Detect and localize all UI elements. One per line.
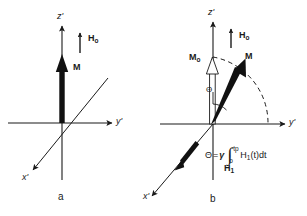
panel-b-z-axis-label: z'	[208, 8, 214, 17]
panel-b-caption: b	[210, 194, 216, 204]
formula-integrand-main: H	[240, 150, 247, 160]
formula-integrand-sub: 1	[247, 154, 251, 161]
panel-b-m0-label: Mo	[189, 53, 200, 62]
integral-sign-group: ∫ tp o	[225, 146, 239, 164]
integral-lower-limit: o	[229, 157, 233, 164]
panel-b-y-axis-label: y'	[289, 118, 295, 127]
panel-b-formula: Θ = γ ∫ tp o H1(t)dt	[205, 146, 266, 164]
panel-a-graphics	[8, 26, 112, 180]
panel-a-x-axis-label: x'	[22, 173, 28, 182]
formula-integrand: H1(t)dt	[240, 150, 266, 160]
panel-a-y-axis-label: y'	[116, 117, 122, 126]
panel-b-h0-label-main: H	[239, 30, 246, 40]
panel-b-graphics	[152, 22, 285, 196]
figure-vector-graphics	[0, 0, 307, 216]
integral-upper-limit: tp	[233, 145, 238, 152]
panel-a-m-label: M	[73, 63, 81, 72]
panel-b-h1-label-sub: 1	[231, 167, 235, 174]
panel-b-h1-vector	[175, 141, 200, 171]
panel-b-h1-label: H1	[224, 164, 234, 173]
panel-b-m0-label-main: M	[189, 52, 197, 62]
panel-a-x-axis	[33, 78, 108, 170]
formula-equals: =	[213, 150, 218, 160]
panel-a-z-axis-label: z'	[57, 12, 63, 21]
panel-a-h0-label-sub: o	[95, 37, 99, 44]
panel-b-h0-label: Ho	[239, 31, 249, 40]
figure-root: z' y' x' Ho M a z' y' x' Ho Mo M H1 Θ Θ …	[0, 0, 307, 216]
panel-b-m-label: M	[245, 52, 253, 61]
panel-a-m-vector	[56, 54, 68, 123]
integral-upper-limit-sub: p	[235, 145, 239, 152]
panel-b-theta-label: Θ	[206, 86, 212, 94]
panel-a-h0-label-main: H	[88, 33, 95, 43]
formula-integrand-rest: (t)dt	[250, 150, 266, 160]
panel-b-x-axis-label: x'	[143, 192, 149, 201]
panel-a-h0-label: Ho	[88, 34, 98, 43]
panel-b-m0-label-sub: o	[197, 56, 201, 63]
panel-a-caption: a	[58, 192, 64, 202]
panel-b-h0-label-sub: o	[246, 34, 250, 41]
formula-gamma: γ	[219, 150, 224, 160]
formula-theta: Θ	[205, 150, 212, 160]
